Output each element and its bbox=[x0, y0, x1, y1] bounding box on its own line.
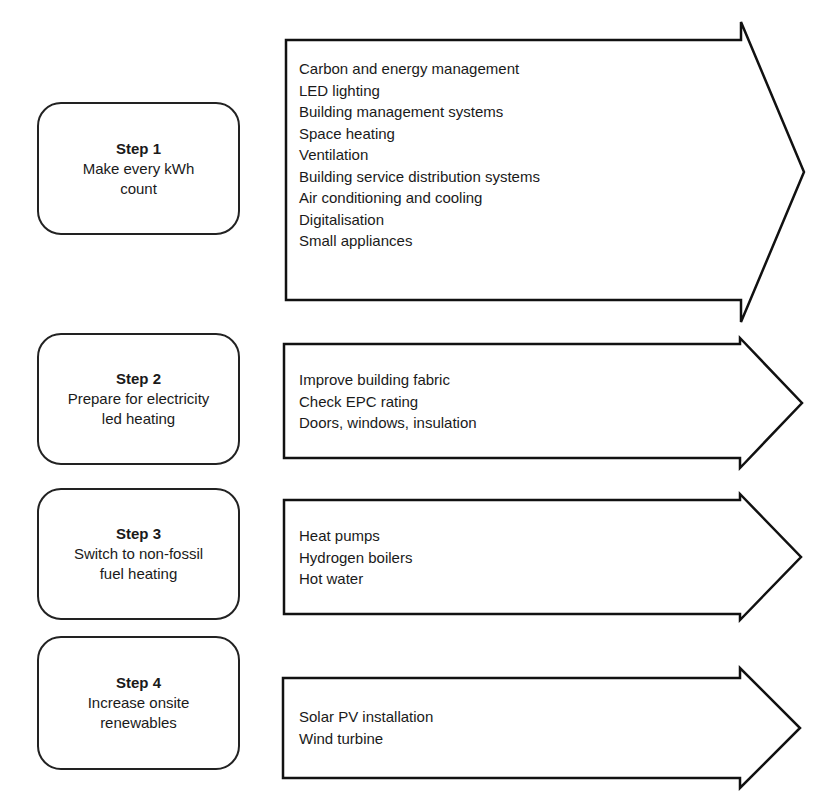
step-1-items: Carbon and energy management LED lightin… bbox=[299, 58, 540, 252]
step-3-box: Step 3 Switch to non-fossil fuel heating bbox=[37, 488, 240, 620]
step-2-description: Prepare for electricity led heating bbox=[68, 389, 210, 429]
list-item: Solar PV installation bbox=[299, 706, 433, 728]
list-item: Check EPC rating bbox=[299, 391, 477, 413]
list-item: Building service distribution systems bbox=[299, 166, 540, 188]
list-item: Hydrogen boilers bbox=[299, 547, 412, 569]
list-item: Improve building fabric bbox=[299, 369, 477, 391]
list-item: Small appliances bbox=[299, 230, 540, 252]
step-1-box: Step 1 Make every kWh count bbox=[37, 102, 240, 235]
step-2-items: Improve building fabric Check EPC rating… bbox=[299, 369, 477, 434]
list-item: Digitalisation bbox=[299, 209, 540, 231]
list-item: Building management systems bbox=[299, 101, 540, 123]
list-item: Ventilation bbox=[299, 144, 540, 166]
step-1-description: Make every kWh count bbox=[83, 159, 195, 199]
list-item: Space heating bbox=[299, 123, 540, 145]
step-3-title: Step 3 bbox=[116, 524, 161, 544]
step-4-title: Step 4 bbox=[116, 673, 161, 693]
list-item: Heat pumps bbox=[299, 525, 412, 547]
step-3-description: Switch to non-fossil fuel heating bbox=[74, 544, 203, 584]
step-1-title: Step 1 bbox=[116, 139, 161, 159]
list-item: Carbon and energy management bbox=[299, 58, 540, 80]
list-item: Wind turbine bbox=[299, 728, 433, 750]
list-item: Hot water bbox=[299, 568, 412, 590]
step-4-items: Solar PV installation Wind turbine bbox=[299, 706, 433, 749]
list-item: LED lighting bbox=[299, 80, 540, 102]
step-3-items: Heat pumps Hydrogen boilers Hot water bbox=[299, 525, 412, 590]
step-4-box: Step 4 Increase onsite renewables bbox=[37, 636, 240, 770]
step-2-box: Step 2 Prepare for electricity led heati… bbox=[37, 333, 240, 465]
list-item: Doors, windows, insulation bbox=[299, 412, 477, 434]
step-2-title: Step 2 bbox=[116, 369, 161, 389]
step-4-description: Increase onsite renewables bbox=[88, 693, 190, 733]
list-item: Air conditioning and cooling bbox=[299, 187, 540, 209]
process-diagram: Step 1 Make every kWh count Step 2 Prepa… bbox=[0, 0, 834, 802]
